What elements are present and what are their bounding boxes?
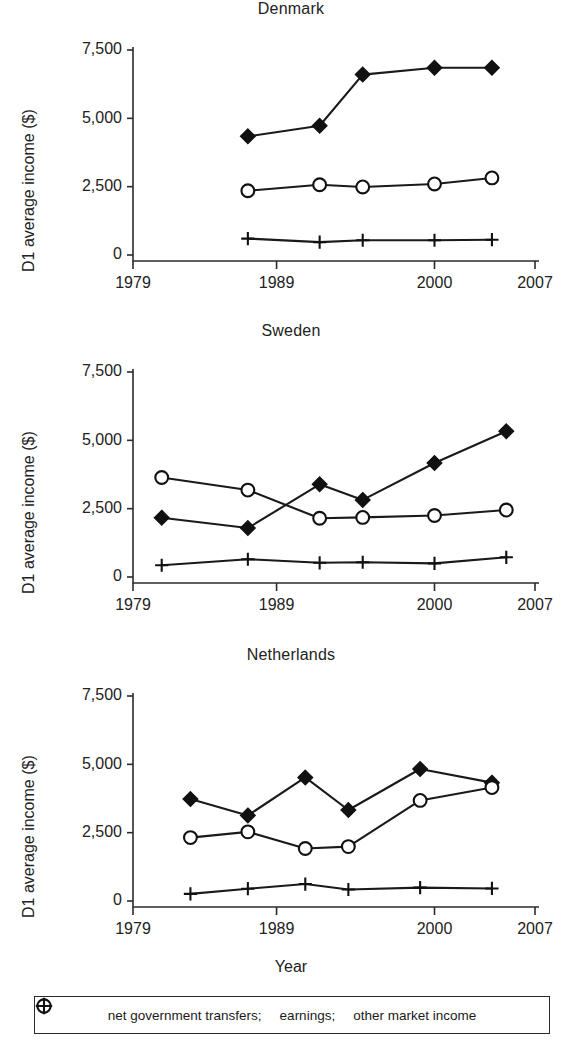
series-line: [162, 557, 507, 565]
data-point-plus-marker: [241, 882, 254, 895]
data-point-open-circle-marker: [342, 840, 355, 853]
data-point-filled-diamond-marker: [427, 456, 442, 471]
y-tick-label: 0: [113, 567, 122, 584]
chart-panel-netherlands: Netherlands D1 average income ($) 02,500…: [0, 646, 582, 976]
x-tick-label: 1979: [115, 920, 151, 937]
y-tick-label: 7,500: [82, 40, 122, 57]
data-point-filled-diamond-marker: [413, 762, 428, 777]
y-tick-label: 5,000: [82, 755, 122, 772]
y-tick-label: 5,000: [82, 109, 122, 126]
legend-label: net government transfers;: [108, 1008, 262, 1023]
axis-spine: [133, 369, 539, 583]
x-tick-label: 1989: [259, 920, 295, 937]
plot-area-denmark: 02,5005,0007,5001979198920002007: [0, 0, 582, 320]
data-point-plus-marker: [356, 556, 369, 569]
data-point-filled-diamond-marker: [427, 60, 442, 75]
data-point-filled-diamond-marker: [355, 493, 370, 508]
x-tick-label: 2007: [517, 920, 553, 937]
data-point-plus-marker: [485, 233, 498, 246]
x-tick-label: 2007: [517, 596, 553, 613]
chart-panel-sweden: Sweden D1 average income ($) 02,5005,000…: [0, 322, 582, 652]
series-line: [190, 788, 492, 849]
data-point-plus-marker: [428, 557, 441, 570]
x-tick-label: 1989: [259, 274, 295, 291]
series-line: [248, 68, 492, 137]
data-point-filled-diamond-marker: [183, 792, 198, 807]
data-point-plus-marker: [313, 236, 326, 249]
plot-area-netherlands: 02,5005,0007,5001979198920002007: [0, 646, 582, 976]
y-tick-label: 0: [113, 891, 122, 908]
legend-item: earnings;: [271, 1008, 345, 1023]
x-tick-label: 2000: [417, 596, 453, 613]
series-line: [162, 478, 507, 519]
axis-spine: [133, 47, 539, 261]
series-line: [190, 884, 492, 894]
data-point-filled-diamond-marker: [154, 510, 169, 525]
data-point-filled-diamond-marker: [312, 477, 327, 492]
data-point-plus-marker: [485, 882, 498, 895]
chart-legend: net government transfers;earnings;other …: [34, 996, 550, 1034]
data-point-open-circle-marker: [428, 178, 441, 191]
data-point-open-circle-marker: [500, 504, 513, 517]
x-tick-label: 2000: [417, 274, 453, 291]
series-line: [190, 769, 492, 815]
legend-item: net government transfers;: [99, 1008, 271, 1023]
chart-panel-denmark: Denmark D1 average income ($) 02,5005,00…: [0, 0, 582, 320]
data-point-plus-marker: [500, 551, 513, 564]
data-point-filled-diamond-marker: [240, 808, 255, 823]
legend-label: other market income: [353, 1008, 476, 1023]
legend-item: other market income: [344, 1008, 485, 1023]
y-tick-label: 7,500: [82, 362, 122, 379]
data-point-open-circle-marker: [356, 511, 369, 524]
data-point-plus-marker: [184, 887, 197, 900]
x-tick-label: 2000: [417, 920, 453, 937]
x-tick-label: 1979: [115, 596, 151, 613]
data-point-plus-marker: [299, 877, 312, 890]
data-point-open-circle-marker: [241, 825, 254, 838]
data-point-plus-marker: [428, 234, 441, 247]
data-point-filled-diamond-marker: [485, 60, 500, 75]
x-tick-label: 2007: [517, 274, 553, 291]
data-point-filled-diamond-marker: [499, 424, 514, 439]
data-point-open-circle-marker: [184, 831, 197, 844]
data-point-filled-diamond-marker: [240, 521, 255, 536]
data-point-plus-marker: [241, 553, 254, 566]
data-point-open-circle-marker: [486, 172, 499, 185]
y-tick-label: 5,000: [82, 431, 122, 448]
data-point-open-circle-marker: [414, 794, 427, 807]
data-point-plus-marker: [342, 883, 355, 896]
data-point-plus-marker: [414, 881, 427, 894]
data-point-plus-marker: [241, 232, 254, 245]
data-point-open-circle-marker: [241, 184, 254, 197]
data-point-plus-marker: [313, 556, 326, 569]
data-point-open-circle-marker: [313, 178, 326, 191]
x-axis-title: Year: [0, 958, 582, 976]
data-point-plus-marker: [155, 559, 168, 572]
y-tick-label: 2,500: [82, 823, 122, 840]
data-point-plus-marker: [356, 234, 369, 247]
y-tick-label: 0: [113, 245, 122, 262]
series-line: [248, 239, 492, 243]
data-point-open-circle-marker: [486, 781, 499, 794]
y-tick-label: 7,500: [82, 686, 122, 703]
y-tick-label: 2,500: [82, 499, 122, 516]
plus-marker: [35, 997, 53, 1015]
data-point-open-circle-marker: [299, 842, 312, 855]
data-point-open-circle-marker: [241, 484, 254, 497]
data-point-open-circle-marker: [313, 512, 326, 525]
x-tick-label: 1979: [115, 274, 151, 291]
data-point-filled-diamond-marker: [240, 129, 255, 144]
data-point-open-circle-marker: [155, 471, 168, 484]
y-tick-label: 2,500: [82, 177, 122, 194]
data-point-open-circle-marker: [428, 509, 441, 522]
x-tick-label: 1989: [259, 596, 295, 613]
data-point-open-circle-marker: [356, 181, 369, 194]
legend-label: earnings;: [280, 1008, 336, 1023]
plot-area-sweden: 02,5005,0007,5001979198920002007: [0, 322, 582, 652]
